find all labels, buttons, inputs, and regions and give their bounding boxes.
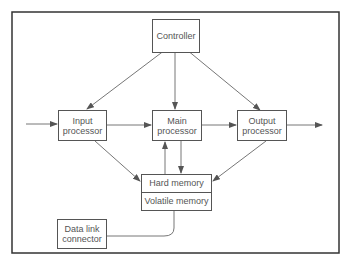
arrow-controller-to-output — [187, 50, 260, 110]
main-processor-box: Main processor — [152, 110, 202, 141]
arrow-output-to-memory — [213, 141, 266, 181]
arrow-input-to-memory — [95, 141, 140, 181]
memory-box: Hard memory Volatile memory — [141, 174, 212, 211]
data-link-connector-box: Data link connector — [57, 219, 107, 249]
volatile-memory-label: Volatile memory — [142, 193, 211, 211]
output-processor-box: Output processor — [237, 110, 287, 141]
hard-memory-label: Hard memory — [142, 175, 211, 193]
input-processor-box: Input processor — [58, 110, 107, 141]
link-memory-to-datalink — [107, 211, 174, 236]
controller-box: Controller — [152, 19, 200, 53]
arrow-controller-to-input — [87, 50, 165, 109]
